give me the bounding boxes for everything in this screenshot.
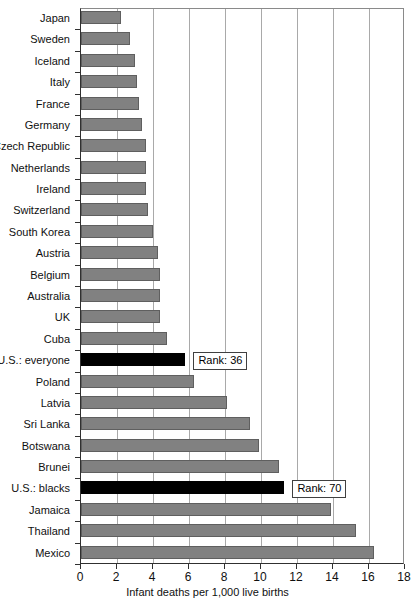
y-axis-tick-label: Germany <box>25 115 70 135</box>
y-axis-tick-label: Switzerland <box>13 200 70 220</box>
x-axis-tick-label: 0 <box>65 570 95 584</box>
bar[interactable] <box>81 32 130 45</box>
y-axis-tick <box>75 179 80 180</box>
bar-row <box>80 94 404 114</box>
y-axis-tick-label: Cuba <box>44 329 70 349</box>
y-axis-tick <box>75 307 80 308</box>
bar[interactable] <box>81 353 185 366</box>
y-axis-tick <box>75 350 80 351</box>
y-axis-tick-label: Botswana <box>22 436 70 456</box>
y-axis-tick-label: Sweden <box>30 29 70 49</box>
bar[interactable] <box>81 139 146 152</box>
bar[interactable] <box>81 268 160 281</box>
y-axis-tick <box>75 372 80 373</box>
y-axis-labels: JapanSwedenIcelandItalyFranceGermanyCzec… <box>0 8 76 564</box>
x-axis-tick-label: 12 <box>281 570 311 584</box>
infant-mortality-bar-chart: JapanSwedenIcelandItalyFranceGermanyCzec… <box>0 0 415 604</box>
bar[interactable] <box>81 481 284 494</box>
x-axis-tick-label: 2 <box>101 570 131 584</box>
bar[interactable] <box>81 417 250 430</box>
x-axis-tick-label: 6 <box>173 570 203 584</box>
bar[interactable] <box>81 546 374 559</box>
bar-row <box>80 329 404 349</box>
y-axis-tick <box>75 436 80 437</box>
bar-row <box>80 500 404 520</box>
bar-row <box>80 222 404 242</box>
bar[interactable] <box>81 332 167 345</box>
y-axis-tick <box>75 329 80 330</box>
bar[interactable] <box>81 289 160 302</box>
bar[interactable] <box>81 246 158 259</box>
x-axis-tick <box>152 564 153 569</box>
x-axis-tick-label: 8 <box>209 570 239 584</box>
rank-annotation: Rank: 36 <box>193 352 247 370</box>
y-axis-tick-label: Iceland <box>35 51 70 71</box>
x-axis-tick <box>260 564 261 569</box>
bars-layer <box>80 8 404 564</box>
rank-annotation: Rank: 70 <box>292 480 346 498</box>
bar[interactable] <box>81 396 227 409</box>
y-axis-tick-label: Poland <box>36 372 70 392</box>
y-axis-tick <box>75 393 80 394</box>
y-axis-tick <box>75 51 80 52</box>
x-axis-tick <box>296 564 297 569</box>
bar[interactable] <box>81 118 142 131</box>
x-axis-tick <box>224 564 225 569</box>
y-axis-tick <box>75 478 80 479</box>
bar[interactable] <box>81 54 135 67</box>
y-axis-tick-label: Czech Republic <box>0 136 70 156</box>
bar[interactable] <box>81 524 356 537</box>
bar-row <box>80 265 404 285</box>
y-axis-tick-label: Brunei <box>38 457 70 477</box>
bar[interactable] <box>81 460 279 473</box>
y-axis-tick-label: Belgium <box>30 265 70 285</box>
y-axis-tick-label: Japan <box>40 8 70 28</box>
bar-row <box>80 136 404 156</box>
bar[interactable] <box>81 182 146 195</box>
y-axis-tick <box>75 72 80 73</box>
bar-row <box>80 29 404 49</box>
y-axis-tick <box>75 265 80 266</box>
y-axis-tick <box>75 158 80 159</box>
y-axis-tick <box>75 243 80 244</box>
bar-row <box>80 115 404 135</box>
x-axis-tick <box>80 564 81 569</box>
y-axis-tick <box>75 200 80 201</box>
bar-row <box>80 478 404 498</box>
bar[interactable] <box>81 503 331 516</box>
x-axis-tick-label: 14 <box>317 570 347 584</box>
bar[interactable] <box>81 225 153 238</box>
bar-row <box>80 72 404 92</box>
y-axis-tick <box>75 115 80 116</box>
y-axis-tick-label: Australia <box>27 286 70 306</box>
y-axis-tick <box>75 521 80 522</box>
bar-row <box>80 243 404 263</box>
bar-row <box>80 8 404 28</box>
y-axis-tick <box>75 94 80 95</box>
y-axis-tick-label: France <box>36 94 70 114</box>
bar-row <box>80 286 404 306</box>
y-axis-tick-label: Jamaica <box>29 500 70 520</box>
bar-row <box>80 51 404 71</box>
bar[interactable] <box>81 203 148 216</box>
y-axis-tick-label: Sri Lanka <box>24 414 70 434</box>
bar[interactable] <box>81 375 194 388</box>
y-axis-tick-label: Austria <box>36 243 70 263</box>
bar[interactable] <box>81 11 121 24</box>
bar-row <box>80 372 404 392</box>
bar-row <box>80 200 404 220</box>
x-axis-tick <box>332 564 333 569</box>
bar[interactable] <box>81 439 259 452</box>
y-axis-tick <box>75 457 80 458</box>
bar[interactable] <box>81 97 139 110</box>
y-axis-tick <box>75 414 80 415</box>
bar[interactable] <box>81 75 137 88</box>
y-axis-tick <box>75 222 80 223</box>
bar[interactable] <box>81 161 146 174</box>
x-axis-tick-label: 18 <box>389 570 415 584</box>
y-axis-tick <box>75 500 80 501</box>
bar[interactable] <box>81 310 160 323</box>
x-axis-title: Infant deaths per 1,000 live births <box>0 586 415 598</box>
bar-row <box>80 436 404 456</box>
y-axis-tick-label: Ireland <box>36 179 70 199</box>
